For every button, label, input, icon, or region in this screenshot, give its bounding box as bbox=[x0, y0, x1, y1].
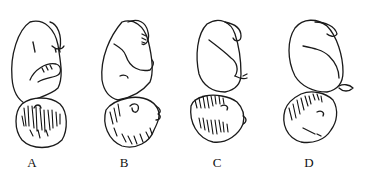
panel-label-a: A bbox=[22, 155, 42, 171]
fetus-drawing-d bbox=[277, 0, 369, 183]
panel-label-b: B bbox=[114, 155, 134, 171]
fetus-drawing-c bbox=[185, 0, 277, 183]
panel-b: B bbox=[92, 0, 184, 183]
panel-c: C bbox=[185, 0, 277, 183]
panel-label-d: D bbox=[299, 155, 319, 171]
panel-a: A bbox=[0, 0, 92, 183]
fetus-drawing-b bbox=[92, 0, 184, 183]
panel-d: D bbox=[277, 0, 369, 183]
panel-label-c: C bbox=[207, 155, 227, 171]
fetus-drawing-a bbox=[0, 0, 92, 183]
